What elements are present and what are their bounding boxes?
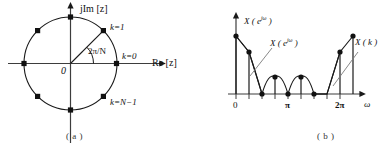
x-axis-label: ω (364, 100, 370, 109)
xtick-label-0: 0 (233, 101, 238, 110)
caption-b: ( b ) (317, 131, 335, 141)
sample-point-kN1 (101, 94, 106, 99)
sample-point-k6 (68, 107, 73, 112)
panel-a-svg (0, 0, 192, 153)
label-k0: k=0 (122, 52, 137, 61)
sample-marker-0 (233, 33, 238, 38)
label-k1: k=1 (110, 23, 125, 32)
label-k-n-minus-1: k=N−1 (110, 98, 137, 107)
panel-b-spectrum: X ( ejω ) X ( ejω ) X ( k ) 0 π 2π ω ( b… (192, 0, 384, 153)
y-axis-label: X ( ejω ) (244, 16, 272, 26)
sample-marker-4 (285, 91, 290, 96)
sample-point-k4 (21, 61, 26, 66)
origin-label: 0 (61, 66, 66, 76)
panel-b-svg (192, 0, 384, 153)
xtick-label-2pi: 2π (335, 101, 344, 110)
sample-point-k5 (35, 94, 40, 99)
angle-label: 2π/N (88, 47, 106, 56)
leader-line-dtft (250, 48, 272, 76)
sample-point-k0 (114, 61, 119, 66)
sample-marker-6 (311, 91, 316, 96)
sample-marker-1 (246, 49, 251, 54)
xtick-label-pi: π (285, 101, 290, 110)
sample-point-k2 (68, 14, 73, 19)
caption-a: ( a ) (66, 131, 83, 141)
imag-axis-label: jIm [z] (80, 4, 108, 14)
leader-line-dft (333, 52, 358, 86)
sample-marker-5 (298, 74, 303, 79)
sample-point-k3 (35, 28, 40, 33)
sample-marker-2 (259, 91, 264, 96)
sample-point-k1 (101, 28, 106, 33)
figure-root: jIm [z] Re [z] 0 2π/N k=1 k=0 k=N−1 ( a … (0, 0, 384, 153)
real-axis-label: Re [z] (152, 58, 177, 68)
panel-a-unit-circle: jIm [z] Re [z] 0 2π/N k=1 k=0 k=N−1 ( a … (0, 0, 192, 153)
sample-marker-7 (337, 49, 342, 54)
annotation-dtft: X ( ejω ) (270, 38, 298, 48)
annotation-dft: X ( k ) (355, 38, 377, 47)
sample-marker-3 (272, 74, 277, 79)
